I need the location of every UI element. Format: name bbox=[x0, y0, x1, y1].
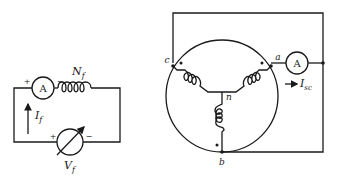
field-winding-coil-icon bbox=[58, 82, 91, 92]
field-ammeter-plus: + bbox=[24, 77, 31, 86]
terminal-c-label: c bbox=[164, 55, 169, 65]
winding-c-coil-icon bbox=[173, 66, 222, 92]
winding-b-coil-icon bbox=[215, 92, 224, 152]
polarity-dot-c bbox=[180, 62, 183, 65]
polarity-dot-a bbox=[261, 62, 264, 65]
field-ammeter: A bbox=[32, 77, 54, 99]
polarity-dot-b bbox=[216, 144, 219, 147]
source-label: Vf bbox=[64, 159, 77, 174]
short-circuit-current-label: Isc bbox=[299, 77, 312, 92]
armature-circuit: c a b n A Isc bbox=[164, 13, 324, 167]
field-current-label: If bbox=[34, 109, 44, 124]
variable-voltage-source-icon bbox=[57, 127, 84, 155]
source-minus: − bbox=[86, 132, 93, 141]
neutral-label: n bbox=[226, 92, 232, 102]
field-circuit: A + − Nf If + − Vf bbox=[14, 65, 120, 174]
short-circuit-ammeter-label: A bbox=[292, 58, 301, 69]
junction-dot bbox=[321, 61, 325, 65]
terminal-a-label: a bbox=[275, 52, 280, 62]
field-winding-label: Nf bbox=[71, 65, 87, 80]
short-circuit-ammeter: A bbox=[286, 52, 308, 74]
terminal-b-label: b bbox=[219, 157, 225, 167]
winding-a-coil-icon bbox=[222, 66, 271, 92]
field-ammeter-label: A bbox=[38, 83, 47, 94]
short-circuit-test-diagram: A + − Nf If + − Vf bbox=[0, 0, 339, 177]
source-plus: + bbox=[50, 132, 57, 141]
